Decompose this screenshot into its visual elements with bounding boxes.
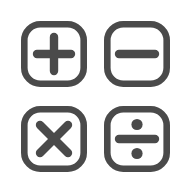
divide-icon (119, 119, 155, 159)
subtract-button[interactable]: Subtract (104, 21, 170, 87)
plus-icon (37, 37, 71, 71)
subtract-button-label: Subtract (104, 87, 105, 88)
multiply-button-label: Multiply (21, 172, 22, 173)
multiply-button[interactable]: Multiply (21, 106, 87, 172)
icon-grid: Add Subtract Multiply (0, 0, 190, 174)
add-button-label: Add (21, 87, 22, 88)
divide-button[interactable]: Divide (104, 106, 170, 172)
divide-button-label: Divide (104, 172, 105, 173)
multiply-icon (40, 125, 68, 153)
add-button[interactable]: Add (21, 21, 87, 87)
